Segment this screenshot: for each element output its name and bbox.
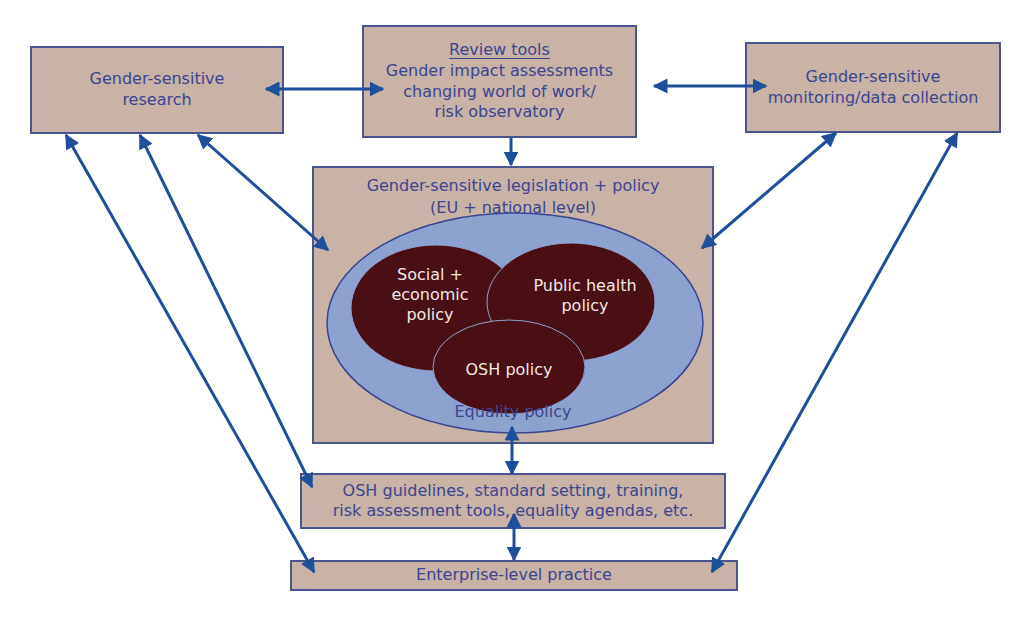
node-text: policy <box>520 296 650 316</box>
node-enterprise-practice: Enterprise-level practice <box>290 560 738 591</box>
policy-venn <box>0 0 1031 625</box>
node-text: policy <box>370 305 490 325</box>
equality-policy-label: Equality policy <box>413 402 613 421</box>
node-osh-guidelines: OSH guidelines, standard setting, traini… <box>300 473 726 529</box>
node-text: Social + <box>370 265 490 285</box>
public-health-label: Public health policy <box>520 276 650 316</box>
node-text: Public health <box>520 276 650 296</box>
node-text: risk assessment tools, equality agendas,… <box>333 501 694 521</box>
node-text: economic <box>370 285 490 305</box>
social-economic-label: Social + economic policy <box>370 265 490 325</box>
node-text: Enterprise-level practice <box>416 565 612 586</box>
osh-policy-label: OSH policy <box>449 360 569 380</box>
node-text: OSH guidelines, standard setting, traini… <box>343 481 684 501</box>
